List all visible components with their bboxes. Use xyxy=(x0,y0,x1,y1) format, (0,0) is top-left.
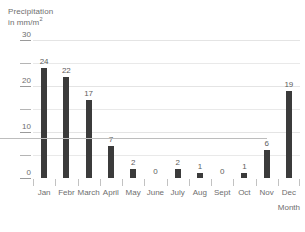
x-axis-tick xyxy=(211,179,212,186)
bar-slot: 24 xyxy=(33,40,55,178)
bar-slot: 17 xyxy=(78,40,100,178)
y-axis-tick xyxy=(20,155,31,156)
x-axis-title: Month xyxy=(278,203,300,212)
x-axis-tick xyxy=(167,179,168,186)
x-axis-tick xyxy=(122,179,123,186)
y-axis-title-exponent: 2 xyxy=(39,16,42,22)
bar-value-label: 17 xyxy=(84,89,93,98)
bar[interactable] xyxy=(197,173,203,178)
bar-slot: 2 xyxy=(167,40,189,178)
x-axis-tick xyxy=(256,179,257,186)
bar-slot: 1 xyxy=(233,40,255,178)
bar-slot: 19 xyxy=(278,40,300,178)
bar-slot: 22 xyxy=(55,40,77,178)
x-axis-tick xyxy=(55,179,56,186)
x-axis-tick xyxy=(189,179,190,186)
bar-value-label: 1 xyxy=(242,162,246,171)
bar[interactable] xyxy=(286,91,292,178)
y-axis-tick-label: 30 xyxy=(5,30,31,39)
x-axis-baseline xyxy=(0,138,267,139)
bar-slot: 7 xyxy=(100,40,122,178)
y-axis-ticks xyxy=(0,40,33,178)
y-axis-tick xyxy=(20,178,31,179)
plot-area: 2422177202101619 xyxy=(33,40,300,178)
y-axis-tick xyxy=(20,63,31,64)
bar[interactable] xyxy=(175,169,181,178)
y-axis-title-unit: in mm/m xyxy=(8,18,39,27)
bar[interactable] xyxy=(130,169,136,178)
bar-slot: 0 xyxy=(211,40,233,178)
y-axis-tick xyxy=(20,109,31,110)
x-axis-tick xyxy=(100,179,101,186)
x-axis-labels: JanFebrMarchAprilMayJuneJulyAugSeptOctNo… xyxy=(33,188,300,201)
precipitation-bar-chart: Precipitation in mm/m2 0102030 242217720… xyxy=(0,0,305,232)
x-axis-tick xyxy=(233,179,234,186)
y-axis-title-line1: Precipitation xyxy=(8,7,53,16)
x-axis-tick xyxy=(78,179,79,186)
y-axis-tick xyxy=(20,132,31,133)
bar-slot: 2 xyxy=(122,40,144,178)
bar[interactable] xyxy=(264,150,270,178)
bar-value-label: 0 xyxy=(153,167,157,176)
bar-slot: 6 xyxy=(256,40,278,178)
x-axis-tick xyxy=(278,179,279,186)
bar-value-label: 2 xyxy=(131,158,135,167)
bar-value-label: 22 xyxy=(62,66,71,75)
bar-value-label: 2 xyxy=(175,158,179,167)
x-axis-tick-label: Dec xyxy=(274,188,304,197)
y-axis-title: Precipitation in mm/m2 xyxy=(8,6,53,28)
bar[interactable] xyxy=(108,146,114,178)
bar-value-label: 19 xyxy=(284,80,293,89)
y-axis-tick xyxy=(20,86,31,87)
bar[interactable] xyxy=(63,77,69,178)
x-axis-tick xyxy=(299,179,300,186)
bar-value-label: 6 xyxy=(264,139,268,148)
bar[interactable] xyxy=(241,173,247,178)
bar-slot: 0 xyxy=(144,40,166,178)
y-axis-tick xyxy=(20,40,31,41)
x-axis-tick xyxy=(33,179,34,186)
y-axis-title-line2: in mm/m2 xyxy=(8,17,53,28)
bar-value-label: 0 xyxy=(220,167,224,176)
bar-value-label: 7 xyxy=(109,135,113,144)
bar-value-label: 24 xyxy=(40,57,49,66)
bar-value-label: 1 xyxy=(198,162,202,171)
x-axis-ticks xyxy=(33,179,300,186)
bar[interactable] xyxy=(41,68,47,178)
bar-slot: 1 xyxy=(189,40,211,178)
x-axis-tick xyxy=(144,179,145,186)
